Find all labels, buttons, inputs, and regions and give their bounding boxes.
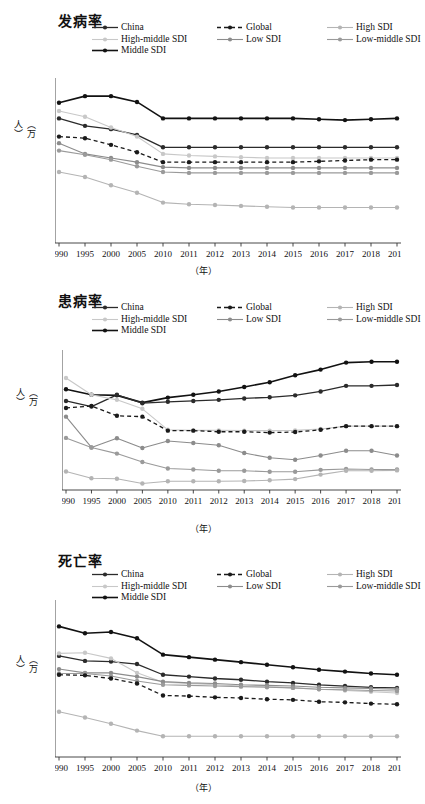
legend-label: Global (246, 303, 272, 313)
series-high-middle-sdi (57, 109, 399, 160)
data-point (115, 398, 119, 402)
legend-item-low-middle-sdi[interactable]: Low-middle SDI (327, 582, 425, 592)
series-low-middle-sdi (57, 148, 399, 175)
legend-item-low-middle-sdi[interactable]: Low-middle SDI (327, 35, 425, 45)
series-low-sdi (64, 414, 399, 462)
legend-label: China (121, 570, 144, 580)
data-point (318, 453, 322, 457)
data-point (135, 662, 139, 666)
legend-label: Low SDI (246, 315, 281, 325)
legend-item-high-sdi[interactable]: High SDI (327, 303, 425, 313)
data-point (395, 453, 399, 457)
data-point (265, 116, 269, 120)
series-middle-sdi (64, 360, 399, 405)
data-point (343, 118, 347, 122)
legend-item-high-middle-sdi[interactable]: High-middle SDI (92, 582, 217, 592)
data-point (217, 479, 221, 483)
legend-item-china[interactable]: China (92, 303, 217, 313)
data-point (343, 669, 347, 673)
legend-item-global[interactable]: Global (217, 23, 327, 33)
legend-item-high-sdi[interactable]: High SDI (327, 23, 425, 33)
legend-item-global[interactable]: Global (217, 303, 327, 313)
data-point (395, 360, 399, 364)
data-point (293, 430, 297, 434)
data-point (89, 393, 93, 397)
x-tick-label: 2016 (310, 763, 329, 773)
data-point (369, 205, 373, 209)
x-tick-label: 2015 (284, 763, 303, 773)
data-point (239, 160, 243, 164)
chart-legend-mortality: ChinaGlobalHigh SDIHigh-middle SDILow SD… (92, 570, 425, 603)
data-point (239, 155, 243, 159)
data-point (187, 694, 191, 698)
series-middle-sdi (57, 94, 399, 122)
data-point (239, 166, 243, 170)
data-point (369, 166, 373, 170)
series-global (57, 134, 399, 164)
data-point (191, 399, 195, 403)
data-point (344, 424, 348, 428)
data-point (161, 200, 165, 204)
x-tick-label: 2015 (284, 249, 303, 259)
data-point (265, 662, 269, 666)
legend-item-middle-sdi[interactable]: Middle SDI (92, 326, 217, 336)
legend-item-low-sdi[interactable]: Low SDI (217, 582, 327, 592)
x-tick-label: 2018 (363, 496, 382, 506)
legend-marker-low-sdi-icon (217, 35, 243, 44)
data-point (242, 451, 246, 455)
x-tick-label: 2014 (261, 496, 280, 506)
data-point (217, 389, 221, 393)
data-point (242, 385, 246, 389)
legend-label: China (121, 303, 144, 313)
x-tick-label: 2018 (362, 249, 381, 259)
legend-label: High SDI (356, 303, 393, 313)
chart-title-mortality: 死亡率 (58, 550, 103, 570)
data-point (64, 436, 68, 440)
legend-label: Low SDI (246, 35, 281, 45)
legend-item-low-sdi[interactable]: Low SDI (217, 35, 327, 45)
data-point (213, 116, 217, 120)
data-point (64, 376, 68, 380)
data-point (64, 469, 68, 473)
data-point (395, 171, 399, 175)
data-point (191, 441, 195, 445)
x-tick-label: 2005 (133, 496, 152, 506)
x-tick-label: 2000 (108, 496, 127, 506)
legend-item-global[interactable]: Global (217, 570, 327, 580)
legend-marker-low-middle-sdi-icon (327, 315, 353, 324)
data-point (166, 479, 170, 483)
data-point (187, 655, 191, 659)
x-axis-label-incidence: （年） (190, 264, 217, 277)
data-point (267, 478, 271, 482)
legend-marker-global-icon (217, 570, 243, 579)
data-point (135, 160, 139, 164)
data-point (109, 157, 113, 161)
legend-marker-china-icon (92, 23, 118, 32)
legend-item-middle-sdi[interactable]: Middle SDI (92, 46, 217, 56)
data-point (83, 631, 87, 635)
legend-item-high-sdi[interactable]: High SDI (327, 570, 425, 580)
data-point (369, 424, 373, 428)
x-tick-label: 1995 (76, 249, 95, 259)
legend-item-china[interactable]: China (92, 570, 217, 580)
legend-item-china[interactable]: China (92, 23, 217, 33)
data-point (318, 389, 322, 393)
data-point (395, 166, 399, 170)
legend-marker-low-middle-sdi-icon (327, 35, 353, 44)
x-tick-label: 2016 (310, 249, 329, 259)
legend-marker-low-sdi-icon (217, 315, 243, 324)
legend-item-high-middle-sdi[interactable]: High-middle SDI (92, 315, 217, 325)
y-axis-label-mortality: （万人） (14, 655, 40, 673)
x-tick-label: 2000 (102, 763, 121, 773)
data-point (57, 667, 61, 671)
series-line-global (66, 406, 397, 433)
legend-item-low-middle-sdi[interactable]: Low-middle SDI (327, 315, 425, 325)
legend-marker-middle-sdi-icon (92, 326, 118, 335)
data-point (64, 387, 68, 391)
x-tick-label: 2014 (258, 249, 277, 259)
legend-item-high-middle-sdi[interactable]: High-middle SDI (92, 35, 217, 45)
data-point (239, 204, 243, 208)
data-point (83, 715, 87, 719)
legend-item-low-sdi[interactable]: Low SDI (217, 315, 327, 325)
y-axis-label-incidence: （万人） (12, 120, 38, 138)
